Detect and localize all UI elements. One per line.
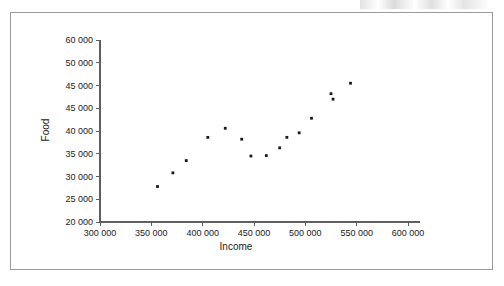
y-tick-label: 25 000 [65,194,93,204]
y-tick-label: 45 000 [65,103,93,113]
data-point [265,154,268,157]
data-point [310,117,313,120]
y-tick-label: 35 000 [65,149,93,159]
data-point [298,131,301,134]
x-tick-label: 450 000 [238,228,271,238]
x-tick-label: 350 000 [135,228,168,238]
x-tick-label: 500 000 [289,228,322,238]
y-axis-tick-labels: 20 00025 00030 00035 00040 00045 00045 0… [65,35,100,227]
y-tick-label: 20 000 [65,217,93,227]
data-point [332,98,335,101]
data-point [206,136,209,139]
x-tick-label: 400 000 [186,228,219,238]
data-point [185,159,188,162]
y-tick-label: 40 000 [65,126,93,136]
axes-group [100,40,420,222]
y-tick-label: 50 000 [65,58,93,68]
y-tick-label: 45 000 [65,81,93,91]
data-point [224,127,227,130]
data-point [250,155,253,158]
x-axis-title: Income [220,241,253,252]
data-points-group [156,82,352,188]
data-point [278,146,281,149]
data-point [240,138,243,141]
data-point [330,92,333,95]
scatter-plot: 20 00025 00030 00035 00040 00045 00045 0… [0,0,504,286]
data-point [285,136,288,139]
x-tick-label: 600 000 [392,228,425,238]
x-axis-tick-labels: 300 000350 000400 000450 000500 000550 0… [84,222,425,238]
data-point [156,185,159,188]
x-tick-label: 300 000 [84,228,117,238]
data-point [349,82,352,85]
chart-svg: 20 00025 00030 00035 00040 00045 00045 0… [0,0,504,286]
x-tick-label: 550 000 [340,228,373,238]
data-point [171,171,174,174]
y-axis-title: Food [40,119,51,142]
y-tick-label: 30 000 [65,172,93,182]
y-tick-label: 60 000 [65,35,93,45]
